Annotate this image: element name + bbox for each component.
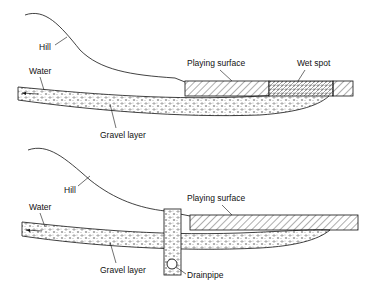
drainage-diagram: Hill Water Playing surface Wet spot Grav…	[0, 0, 375, 292]
bottom-diagram: Hill Water Playing surface Drainpipe Gra…	[22, 148, 358, 280]
wet-spot	[269, 81, 333, 96]
gravel-layer-label: Gravel layer	[100, 130, 146, 140]
drainpipe-label: Drainpipe	[187, 270, 224, 280]
water-label: Water	[29, 202, 52, 212]
playing-surface-label: Playing surface	[187, 58, 245, 68]
hill-label: Hill	[39, 42, 51, 52]
hill-label: Hill	[64, 185, 76, 195]
playing-surface-label: Playing surface	[187, 193, 245, 203]
playing-surface	[185, 81, 269, 96]
hill-line	[28, 148, 190, 216]
drainpipe	[167, 259, 177, 269]
top-diagram: Hill Water Playing surface Wet spot Grav…	[18, 13, 353, 140]
wet-spot-label: Wet spot	[297, 58, 331, 68]
gravel-layer-label: Gravel layer	[100, 265, 146, 275]
playing-surface	[190, 215, 358, 230]
water-label: Water	[29, 66, 52, 76]
